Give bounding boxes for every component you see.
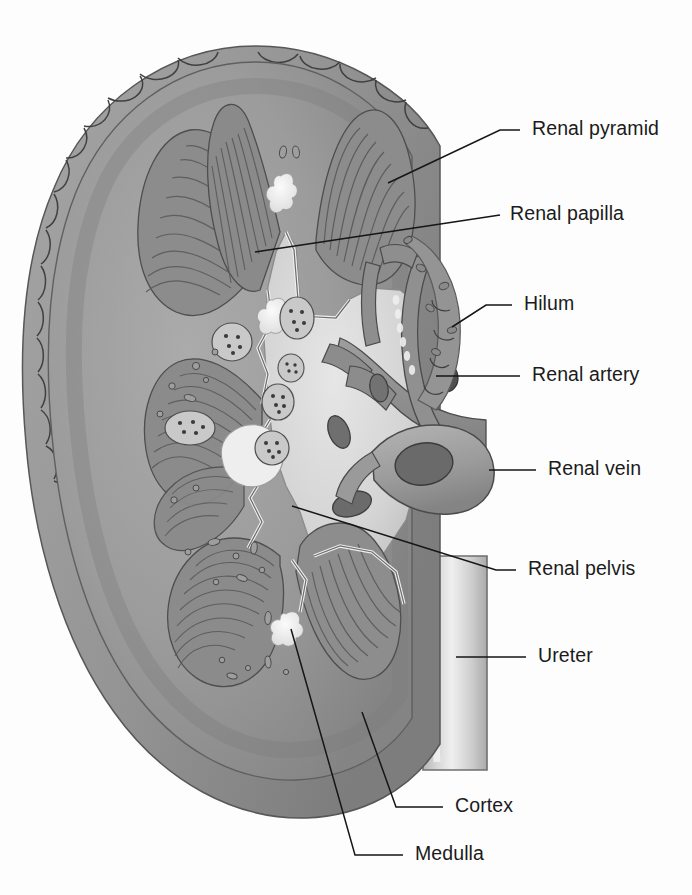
label-renal-artery: Renal artery	[532, 363, 640, 385]
label-medulla: Medulla	[415, 842, 484, 864]
label-hilum: Hilum	[524, 292, 574, 314]
label-renal-pelvis: Renal pelvis	[528, 557, 636, 579]
label-ureter: Ureter	[538, 644, 593, 666]
label-renal-vein: Renal vein	[548, 457, 641, 479]
label-renal-papilla: Renal papilla	[510, 202, 624, 224]
kidney-diagram-figure: Renal pyramid Renal papilla Hilum Renal …	[0, 0, 692, 895]
label-renal-pyramid: Renal pyramid	[532, 117, 659, 139]
label-cortex: Cortex	[455, 794, 513, 816]
kidney-diagram-canvas: Renal pyramid Renal papilla Hilum Renal …	[0, 0, 692, 895]
